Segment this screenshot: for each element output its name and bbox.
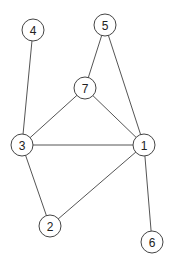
node-3: 3 (11, 134, 33, 156)
node-2: 2 (39, 215, 61, 237)
edge-4-3 (22, 30, 33, 145)
node-label: 6 (149, 236, 156, 250)
node-label: 2 (47, 220, 54, 234)
node-4: 4 (22, 19, 44, 41)
node-label: 5 (102, 19, 109, 33)
edge-7-3 (22, 88, 85, 145)
graph-diagram: 1234567 (0, 0, 172, 263)
edge-2-1 (50, 145, 144, 226)
edge-5-1 (105, 25, 144, 145)
edges-layer (22, 25, 152, 242)
node-5: 5 (94, 14, 116, 36)
node-label: 7 (82, 82, 89, 96)
node-label: 1 (141, 139, 148, 153)
edge-1-6 (144, 145, 152, 242)
edge-3-2 (22, 145, 50, 226)
node-1: 1 (133, 134, 155, 156)
node-6: 6 (141, 231, 163, 253)
node-7: 7 (74, 77, 96, 99)
node-label: 3 (19, 139, 26, 153)
node-label: 4 (30, 24, 37, 38)
